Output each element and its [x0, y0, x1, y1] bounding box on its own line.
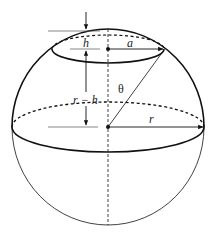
label-h: h	[83, 36, 89, 50]
label-r: r	[149, 112, 154, 126]
label-theta: θ	[118, 82, 124, 96]
sphere-upper-outline	[12, 29, 204, 127]
spherical-cap-diagram: h a θ r − h r	[0, 0, 214, 236]
label-a: a	[127, 36, 133, 50]
label-r-minus-h: r − h	[73, 93, 98, 107]
